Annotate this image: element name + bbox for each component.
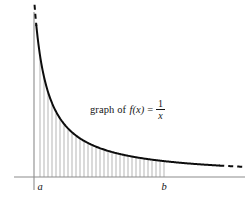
curve-annotation: graph of f(x) = 1 x [90, 99, 165, 121]
fraction-denominator: x [158, 110, 162, 121]
annotation-fraction: 1 x [156, 99, 165, 121]
annotation-prefix: graph of [90, 105, 126, 116]
tick-label-a: a [37, 181, 42, 192]
figure-container: a b graph of f(x) = 1 x [0, 0, 251, 204]
tick-label-b: b [161, 181, 166, 192]
annotation-equals-sign: = [147, 105, 153, 116]
annotation-function-name: f(x) [130, 105, 145, 116]
curve-dashed-upper-extension [35, 5, 37, 26]
curve-dashed-right-extension [219, 166, 243, 167]
fraction-numerator: 1 [158, 99, 163, 110]
